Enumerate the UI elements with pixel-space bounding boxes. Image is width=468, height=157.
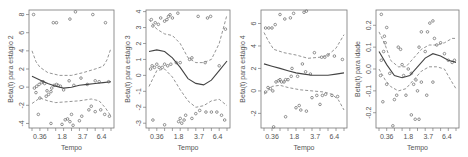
data-point bbox=[401, 63, 404, 66]
data-point bbox=[382, 50, 385, 53]
data-point bbox=[291, 67, 294, 70]
plot-box bbox=[261, 10, 347, 128]
data-point bbox=[37, 113, 40, 116]
x-tick-label: 0.36 bbox=[380, 133, 394, 140]
y-tick-label: -0.2 bbox=[365, 107, 372, 119]
lower-ci-line bbox=[32, 98, 111, 116]
data-point bbox=[418, 118, 421, 121]
data-point bbox=[319, 103, 322, 106]
y-axis-label: Beta(t) para idade bbox=[354, 41, 362, 97]
y-tick-label: 2 bbox=[18, 67, 25, 71]
data-point bbox=[92, 13, 95, 16]
data-point bbox=[415, 79, 418, 82]
data-point bbox=[197, 15, 200, 18]
data-point bbox=[104, 21, 107, 24]
y-tick-label: 6 bbox=[250, 21, 257, 25]
data-point bbox=[432, 20, 435, 23]
x-tick-label: 6.4 bbox=[213, 133, 223, 140]
data-point bbox=[429, 22, 432, 25]
data-point bbox=[271, 27, 274, 30]
data-point bbox=[69, 18, 72, 21]
data-point bbox=[184, 114, 187, 117]
data-point bbox=[163, 63, 166, 66]
data-point bbox=[333, 55, 336, 58]
data-point bbox=[296, 75, 299, 78]
data-point bbox=[382, 100, 385, 103]
panel-2: -3-2-1012340.361.83.76.4TempoBeta(t) par… bbox=[124, 10, 230, 152]
data-point bbox=[191, 117, 194, 120]
y-tick-label: 0.0 bbox=[365, 64, 372, 74]
data-point bbox=[380, 59, 383, 62]
lower-ci-line bbox=[264, 85, 344, 110]
data-point bbox=[35, 91, 38, 94]
data-point bbox=[433, 37, 436, 40]
data-point bbox=[69, 120, 72, 123]
data-point bbox=[32, 13, 35, 16]
x-tick-label: 3.7 bbox=[423, 133, 433, 140]
plot-box bbox=[146, 10, 230, 128]
data-point bbox=[149, 68, 152, 71]
data-point bbox=[35, 85, 38, 88]
data-point bbox=[153, 66, 156, 69]
data-point bbox=[209, 15, 212, 18]
data-point bbox=[70, 113, 73, 116]
data-point bbox=[154, 21, 157, 24]
data-point bbox=[298, 104, 301, 107]
data-point bbox=[268, 27, 271, 30]
data-point bbox=[179, 61, 182, 64]
data-point bbox=[180, 122, 183, 125]
y-axis-label: Beta(t) para estágio 2 bbox=[7, 35, 15, 102]
x-tick-label: 3.7 bbox=[310, 133, 320, 140]
data-point bbox=[157, 23, 160, 26]
y-tick-label: 4 bbox=[135, 10, 142, 14]
y-tick-label: -3 bbox=[135, 120, 142, 126]
fit-line bbox=[264, 64, 344, 75]
fit-line bbox=[379, 52, 456, 78]
data-point bbox=[55, 21, 58, 24]
y-tick-label: 0 bbox=[135, 73, 142, 77]
data-point bbox=[161, 66, 164, 69]
y-tick-label: 8 bbox=[18, 12, 25, 16]
data-point bbox=[205, 111, 208, 114]
plot-box bbox=[376, 10, 459, 128]
data-point bbox=[301, 63, 304, 66]
data-point bbox=[218, 65, 221, 68]
y-tick-label: 4 bbox=[250, 44, 257, 48]
upper-ci-line bbox=[264, 33, 344, 59]
data-point bbox=[94, 110, 97, 113]
data-point bbox=[443, 52, 446, 55]
data-point bbox=[412, 83, 415, 86]
data-point bbox=[336, 95, 339, 98]
data-point bbox=[88, 109, 91, 112]
data-point bbox=[274, 23, 277, 26]
data-point bbox=[424, 50, 427, 53]
data-point bbox=[379, 74, 382, 77]
data-point bbox=[80, 115, 83, 118]
data-point bbox=[33, 87, 36, 90]
data-point bbox=[108, 115, 111, 118]
data-point bbox=[405, 94, 408, 97]
data-point bbox=[414, 118, 417, 121]
data-point bbox=[177, 12, 180, 15]
y-tick-label: 6 bbox=[18, 31, 25, 35]
x-tick-label: 0.36 bbox=[265, 133, 279, 140]
x-axis-label: Tempo bbox=[61, 144, 82, 152]
x-tick-label: 6.4 bbox=[330, 133, 340, 140]
data-point bbox=[62, 89, 65, 92]
data-point bbox=[171, 17, 174, 20]
data-point bbox=[264, 27, 267, 30]
data-point bbox=[52, 21, 55, 24]
upper-ci-line bbox=[32, 48, 111, 75]
x-tick-label: 6.4 bbox=[442, 133, 452, 140]
data-point bbox=[47, 93, 50, 96]
data-point bbox=[167, 15, 170, 18]
data-point bbox=[163, 124, 166, 127]
data-point bbox=[223, 119, 226, 122]
data-point bbox=[169, 13, 172, 16]
x-tick-label: 6.4 bbox=[97, 133, 107, 140]
data-point bbox=[321, 94, 324, 97]
data-point bbox=[432, 81, 435, 84]
y-axis-label: Beta(t) para estágio 4 bbox=[239, 35, 247, 102]
x-axis-label: Tempo bbox=[293, 144, 314, 152]
data-point bbox=[393, 98, 396, 101]
